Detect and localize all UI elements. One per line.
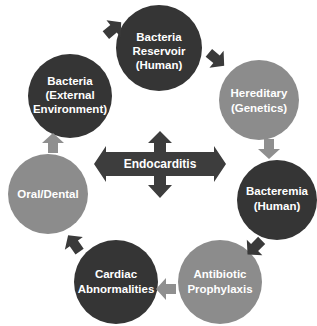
svg-text:Bacteria: Bacteria (47, 75, 93, 87)
svg-text:(Human): (Human) (136, 59, 183, 71)
svg-text:(External: (External (45, 89, 94, 101)
arrow-antibiotic-to-cardiac-icon (156, 278, 176, 300)
svg-text:Reservoir: Reservoir (132, 45, 186, 57)
svg-text:Hereditary: Hereditary (231, 87, 288, 99)
svg-text:Environment): Environment) (33, 103, 107, 115)
center-label-endocarditis: Endocarditis (124, 157, 197, 171)
svg-text:Abnormalities: Abnormalities (78, 283, 155, 295)
node-bacteria-reservoir: Bacteria Reservoir (Human) (116, 5, 202, 91)
center-four-way-arrow-icon: Endocarditis (94, 131, 226, 198)
node-oral-dental: Oral/Dental (8, 154, 88, 234)
arrow-reservoir-to-hereditary-icon (202, 44, 231, 74)
node-bacteremia: Bacteremia (Human) (237, 160, 317, 240)
arrow-cardiac-to-oral-icon (59, 229, 88, 258)
node-bacteria-external: Bacteria (External Environment) (28, 54, 112, 138)
endocarditis-cycle-diagram: Bacteria Reservoir (Human) Hereditary (G… (0, 0, 317, 326)
svg-text:Cardiac: Cardiac (95, 268, 138, 280)
svg-text:Antibiotic: Antibiotic (193, 268, 247, 280)
node-cardiac-abnormalities: Cardiac Abnormalities (74, 240, 158, 324)
node-hereditary: Hereditary (Genetics) (219, 60, 299, 140)
svg-text:Prophylaxis: Prophylaxis (187, 283, 252, 295)
svg-text:(Genetics): (Genetics) (231, 102, 287, 114)
svg-text:Oral/Dental: Oral/Dental (17, 188, 78, 200)
arrow-hereditary-to-bacteremia-icon (258, 139, 280, 159)
svg-text:Bacteria: Bacteria (136, 31, 182, 43)
svg-text:Bacteremia: Bacteremia (246, 185, 309, 197)
svg-text:(Human): (Human) (254, 200, 301, 212)
